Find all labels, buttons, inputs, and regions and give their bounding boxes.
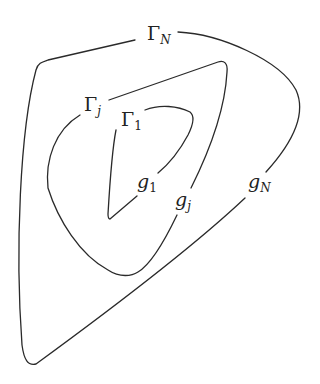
label-gamma-n-symbol: Γ — [147, 22, 160, 44]
label-gamma-n-subscript: N — [160, 33, 171, 47]
label-gamma-j: Γj — [84, 95, 101, 117]
label-gamma-j-subscript: j — [97, 104, 101, 118]
label-gamma-1: Γ1 — [121, 110, 142, 132]
label-g-n-symbol: g — [248, 170, 260, 192]
label-gamma-n: ΓN — [147, 24, 171, 46]
label-gamma-j-symbol: Γ — [84, 93, 97, 115]
label-g-n: gN — [248, 172, 271, 194]
label-g-n-subscript: N — [260, 181, 271, 195]
label-gamma-1-subscript: 1 — [134, 119, 142, 133]
label-g-1: g1 — [137, 172, 157, 194]
label-g-j-symbol: g — [175, 188, 187, 210]
label-g-1-symbol: g — [137, 170, 149, 192]
label-gamma-1-symbol: Γ — [121, 108, 134, 130]
curve-gamma-j — [47, 61, 227, 275]
label-g-1-subscript: 1 — [149, 181, 157, 195]
label-g-j-subscript: j — [187, 199, 191, 213]
label-g-j: gj — [175, 190, 191, 212]
